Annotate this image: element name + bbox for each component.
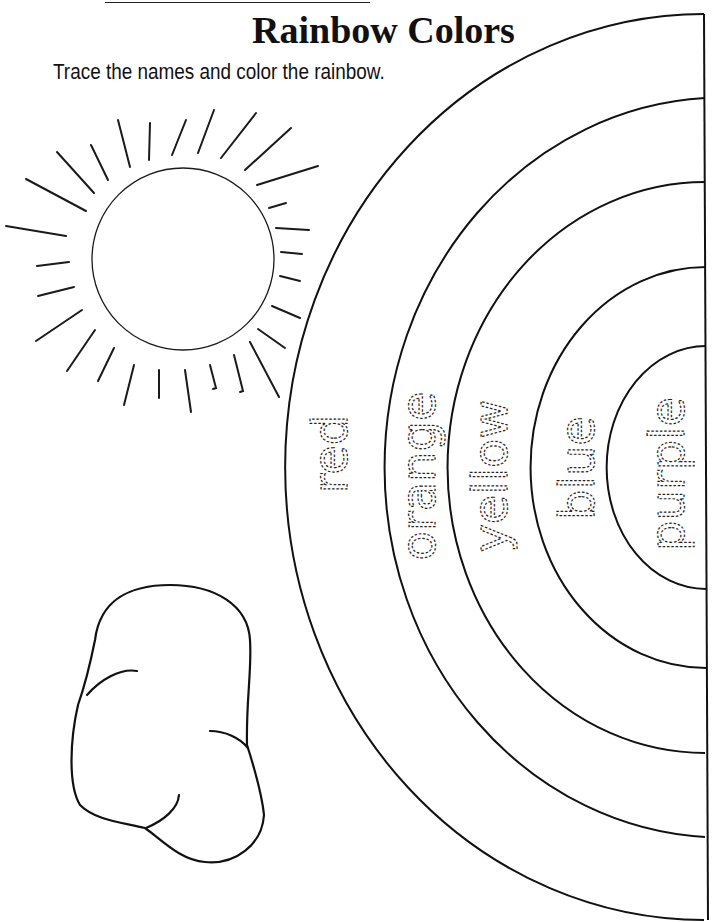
worksheet-page: Rainbow Colors Trace the names and color…	[0, 0, 720, 922]
trace-word-red[interactable]: red	[302, 415, 358, 494]
rainbow-right-edge	[704, 14, 708, 920]
sun-icon	[6, 110, 318, 412]
worksheet-illustrations: red orange yellow blue purple	[0, 0, 720, 922]
cloud-outline	[72, 585, 265, 862]
trace-word-orange[interactable]: orange	[390, 392, 446, 561]
cloud-icon	[72, 585, 265, 862]
trace-word-purple[interactable]: purple	[639, 397, 695, 551]
sun-circle	[92, 168, 274, 350]
trace-words: red orange yellow blue purple	[302, 392, 695, 561]
trace-word-yellow[interactable]: yellow	[462, 399, 518, 552]
trace-word-blue[interactable]: blue	[549, 416, 605, 520]
